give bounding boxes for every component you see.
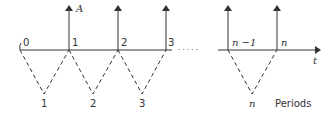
period-triangle-1 — [20, 50, 69, 94]
time-point-0: 0 — [23, 37, 29, 48]
ellipsis: · · · · · — [178, 46, 198, 54]
time-point-2: 2 — [121, 37, 127, 48]
cash-flow-diagram: A 0 1 2 3 · · · · · n −1 n t 1 2 3 n Per… — [0, 0, 329, 114]
axis-start-tick — [20, 43, 21, 50]
time-axis-label: t — [313, 55, 318, 66]
period-label-2: 2 — [90, 98, 96, 109]
period-triangle-n — [228, 50, 277, 94]
amount-label: A — [75, 3, 83, 14]
time-point-n-minus-1: n −1 — [232, 37, 256, 48]
period-label-n: n — [249, 98, 255, 109]
time-point-n: n — [281, 37, 287, 48]
periods-caption: Periods — [275, 98, 311, 109]
period-triangle-3 — [118, 50, 166, 94]
period-triangle-2 — [69, 50, 118, 94]
time-point-1: 1 — [72, 37, 78, 48]
time-point-3: 3 — [168, 37, 174, 48]
period-label-1: 1 — [41, 98, 47, 109]
period-label-3: 3 — [139, 98, 145, 109]
